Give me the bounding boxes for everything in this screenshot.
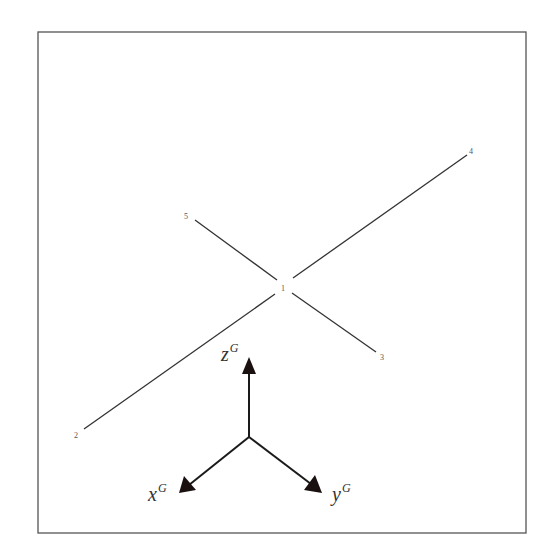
node-label-5: 5: [184, 212, 188, 221]
node-labels: 1 2 3 4 5: [74, 147, 473, 440]
x-axis-arrow: [179, 437, 249, 493]
z-arrowhead-icon: [242, 357, 256, 374]
node-label-4: 4: [469, 147, 473, 156]
member-1-4: [293, 155, 467, 278]
z-axis-label: zG: [220, 341, 239, 365]
structure-diagram: 1 2 3 4 5 zG xG yG: [0, 0, 556, 558]
diagram-frame: [38, 32, 526, 533]
member-1-3: [292, 293, 376, 352]
y-arrowhead-icon: [304, 475, 322, 493]
x-arrowhead-icon: [179, 476, 196, 493]
node-label-1: 1: [281, 284, 285, 293]
global-axes: zG xG yG: [147, 341, 351, 506]
member-1-2: [84, 294, 275, 429]
y-axis-label: yG: [330, 481, 351, 506]
x-axis-label: xG: [147, 481, 167, 505]
node-label-2: 2: [74, 431, 78, 440]
truss-members: [84, 155, 467, 429]
y-axis-arrow: [249, 437, 322, 493]
node-label-3: 3: [380, 353, 384, 362]
member-1-5: [195, 220, 277, 280]
z-axis-arrow: [242, 357, 256, 437]
